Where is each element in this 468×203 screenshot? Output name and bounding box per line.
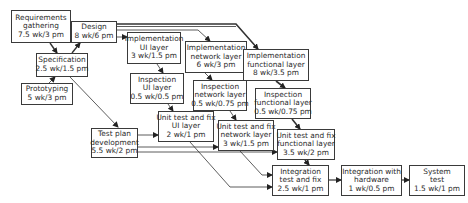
- node-design: Design 8 wk/6 pm: [71, 21, 117, 43]
- node-unit-test-ui-layer: Unit test and fix UI layer 2 wk/1 pm: [158, 111, 214, 142]
- node-effort: 6 wk/3 pm: [197, 61, 236, 70]
- node-effort: 7.5 wk/3 pm: [18, 31, 64, 40]
- node-effort: 5 wk/3 pm: [28, 94, 67, 103]
- edge-implui-inspui: [157, 64, 163, 73]
- node-implementation-functional-layer: Implementation functional layer 8 wk/3.5…: [243, 49, 309, 81]
- node-inspection-functional-layer: Inspection functional layer 0.5 wk/0.75 …: [255, 88, 311, 119]
- node-test-plan-development: Test plan development 5.5 wk/2 pm: [91, 128, 138, 158]
- edge-implnet-inspnet: [205, 73, 212, 80]
- node-prototyping: Prototyping 5 wk/3 pm: [21, 83, 73, 105]
- node-effort: 3 wk/1.5 pm: [223, 140, 269, 149]
- edge-utnet-integ: [240, 151, 272, 175]
- node-implementation-network-layer: Implementation network layer 6 wk/3 pm: [185, 41, 247, 73]
- edge-inspui-utui: [168, 104, 173, 111]
- node-effort: 2.5 wk/1 pm: [278, 185, 324, 194]
- edge-spec-testplan: [70, 77, 118, 127]
- edge-req-spec: [50, 43, 57, 53]
- node-implementation-ui-layer: Implementation UI layer 3 wk/1.5 pm: [127, 32, 181, 64]
- node-effort: 3 wk/1.5 pm: [131, 52, 177, 61]
- node-effort: 5.5 wk/2 pm: [92, 147, 138, 156]
- node-integration-test-and-fix: Integration test and fix 2.5 wk/1 pm: [272, 165, 329, 196]
- activity-network-diagram: Requirements gathering 7.5 wk/3 pm Desig…: [0, 0, 468, 203]
- node-integration-with-hardware: Integration with hardware 1 wk/0.5 pm: [341, 165, 402, 196]
- node-system-test: System test 1.5 wk/1 pm: [409, 165, 465, 196]
- node-unit-test-network-layer: Unit test and fix network layer 3 wk/1.5…: [218, 120, 274, 151]
- node-specification: Specification 2.5 wk/1.5 pm: [36, 53, 88, 77]
- node-effort: 2.5 wk/1.5 pm: [36, 65, 89, 74]
- node-effort: 1 wk/0.5 pm: [349, 185, 395, 194]
- edge-implfunc-inspfunc: [276, 81, 285, 88]
- node-effort: 0.5 wk/0.5 pm: [131, 93, 184, 102]
- node-effort: 0.5 wk/0.75 pm: [191, 100, 249, 109]
- node-effort: 8 wk/3.5 pm: [253, 69, 299, 78]
- node-unit-test-functional-layer: Unit test and fix functional layer 3.5 w…: [277, 129, 335, 160]
- node-effort: 2 wk/1 pm: [167, 131, 206, 140]
- node-effort: 8 wk/6 pm: [75, 32, 114, 41]
- node-effort: 0.5 wk/0.75 pm: [254, 108, 312, 117]
- edge-spec-design: [72, 43, 80, 53]
- node-inspection-network-layer: Inspection network layer 0.5 wk/0.75 pm: [193, 80, 247, 111]
- edge-inspnet-utnet: [230, 111, 236, 120]
- node-inspection-ui-layer: Inspection UI layer 0.5 wk/0.5 pm: [130, 73, 184, 104]
- node-effort: 3.5 wk/2 pm: [283, 149, 329, 158]
- edge-inspfunc-utfunc: [292, 119, 300, 129]
- node-requirements-gathering: Requirements gathering 7.5 wk/3 pm: [11, 10, 71, 43]
- node-effort: 1.5 wk/1 pm: [414, 185, 460, 194]
